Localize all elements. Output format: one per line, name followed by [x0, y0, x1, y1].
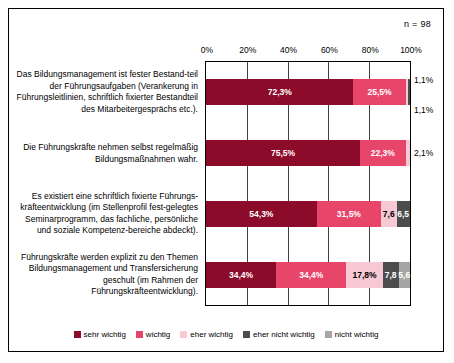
category-label: Es existiert eine schriftlich fixierte F…: [16, 191, 206, 237]
bar-segment: 34,4%: [206, 262, 276, 288]
legend-swatch: [325, 331, 332, 338]
x-tick-label: 100%: [400, 45, 422, 55]
value-callout: 1,1%: [414, 105, 433, 115]
bar-segment: [408, 79, 410, 105]
category-label: Die Führungskräfte nehmen selbst regelmä…: [16, 142, 206, 165]
bar-segment: 7,8: [383, 262, 399, 288]
x-tick-label: 80%: [362, 45, 379, 55]
sample-size-note: n = 98: [404, 19, 431, 29]
x-tick-label: 0%: [201, 45, 213, 55]
legend-item: nicht wichtig: [325, 330, 379, 339]
bar-row: Es existiert eine schriftlich fixierte F…: [206, 201, 410, 227]
bar-segment: 75,5%: [206, 140, 360, 166]
value-callout: 1,1%: [414, 75, 433, 85]
bar-segment: 7,6: [381, 201, 397, 227]
x-tick-label: 20%: [239, 45, 256, 55]
legend-label: eher nicht wichtig: [253, 330, 315, 339]
chart-legend: sehr wichtigwichtigeher wichtigeher nich…: [9, 330, 443, 339]
bar-segment: 54,3%: [206, 201, 317, 227]
bar-segment: 22,3%: [360, 140, 405, 166]
bar-segment: 34,4%: [276, 262, 346, 288]
x-axis-tick-labels: 0%20%40%60%80%100%: [205, 45, 417, 59]
legend-label: nicht wichtig: [335, 330, 379, 339]
x-tick-label: 60%: [321, 45, 338, 55]
bar-segment: 72,3%: [206, 79, 353, 105]
legend-label: eher wichtig: [190, 330, 233, 339]
x-tick-label: 40%: [280, 45, 297, 55]
bar-segment: 25,5%: [353, 79, 405, 105]
bar-segment: 6,5: [397, 201, 410, 227]
legend-item: wichtig: [136, 330, 170, 339]
bar-segment: 5,6: [399, 262, 410, 288]
bar-segment: 31,5%: [317, 201, 381, 227]
legend-label: sehr wichtig: [84, 330, 126, 339]
bar-segment: 17,8%: [346, 262, 382, 288]
bar-row: Führungskräfte werden explizit zu den Th…: [206, 262, 410, 288]
bar-segment: [406, 140, 410, 166]
legend-swatch: [180, 331, 187, 338]
category-label: Führungskräfte werden explizit zu den Th…: [16, 252, 206, 298]
legend-item: eher wichtig: [180, 330, 233, 339]
legend-item: sehr wichtig: [74, 330, 126, 339]
legend-label: wichtig: [146, 330, 170, 339]
legend-swatch: [243, 331, 250, 338]
legend-item: eher nicht wichtig: [243, 330, 315, 339]
plot-area: Das Bildungsmanagement ist fester Bestan…: [205, 61, 411, 306]
legend-swatch: [74, 331, 81, 338]
value-callout: 2,1%: [414, 148, 433, 158]
chart-frame: n = 98 0%20%40%60%80%100% Das Bildungsma…: [8, 8, 444, 352]
bar-row: Die Führungskräfte nehmen selbst regelmä…: [206, 140, 410, 166]
legend-swatch: [136, 331, 143, 338]
bar-row: Das Bildungsmanagement ist fester Bestan…: [206, 79, 410, 105]
category-label: Das Bildungsmanagement ist fester Bestan…: [16, 69, 206, 115]
